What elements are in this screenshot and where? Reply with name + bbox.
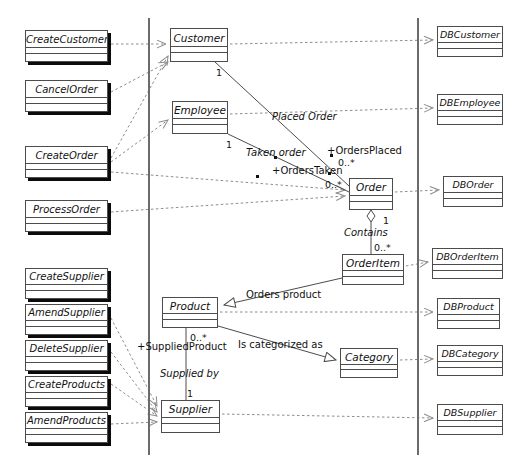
class-box-customer[interactable]: Customer — [170, 28, 228, 62]
class-name: DBOrderItem — [433, 249, 502, 265]
class-name: DBOrder — [444, 177, 502, 193]
class-box-amendproducts[interactable]: AmendProducts — [25, 412, 108, 443]
class-operations — [173, 125, 227, 133]
multiplicity-label: 0..* — [338, 158, 355, 168]
class-name: Category — [341, 349, 397, 365]
association-label: Supplied by — [160, 369, 219, 379]
multiplicity-label: 1 — [216, 68, 222, 78]
class-name: Customer — [171, 29, 227, 47]
class-operations — [26, 291, 107, 298]
class-box-category[interactable]: Category — [340, 348, 398, 378]
role-marker — [330, 154, 333, 157]
multiplicity-label: 0..* — [190, 333, 207, 343]
divider-boundary-entity — [148, 18, 150, 455]
class-box-createproducts[interactable]: CreateProducts — [25, 376, 108, 407]
role-marker — [274, 156, 277, 159]
dep-customer-dbcustomer — [230, 40, 433, 44]
uml-diagram-canvas: CreateCustomerCancelOrderCreateOrderProc… — [0, 0, 528, 469]
association-label: Placed Order — [272, 112, 337, 122]
association-label: Is categorized as — [238, 340, 323, 350]
class-operations — [438, 321, 499, 328]
class-box-deletesupplier[interactable]: DeleteSupplier — [25, 340, 108, 371]
class-operations — [343, 277, 403, 284]
class-name: Product — [163, 298, 217, 314]
class-operations — [341, 370, 397, 377]
class-box-product[interactable]: Product — [162, 297, 218, 328]
multiplicity-label: 1 — [226, 140, 232, 150]
class-operations — [163, 320, 217, 327]
association-label: +SuppliedProduct — [137, 342, 227, 352]
multiplicity-label: 1 — [187, 389, 193, 399]
class-box-cancelorder[interactable]: CancelOrder — [25, 80, 108, 112]
class-name: Order — [350, 179, 392, 196]
class-box-orderitem[interactable]: OrderItem — [342, 254, 404, 285]
class-box-dbcustomer[interactable]: DBCustomer — [437, 26, 503, 57]
class-box-amendsupplier[interactable]: AmendSupplier — [25, 304, 108, 335]
class-name: ProcessOrder — [26, 201, 107, 218]
class-name: DBSupplier — [438, 405, 502, 421]
class-name: Employee — [173, 102, 227, 119]
association-label: Orders product — [246, 290, 321, 300]
class-operations — [26, 170, 107, 177]
class-operations — [438, 368, 502, 375]
class-box-createcustomer[interactable]: CreateCustomer — [25, 30, 108, 62]
class-box-createsupplier[interactable]: CreateSupplier — [25, 268, 108, 299]
class-name: CreateCustomer — [26, 31, 107, 48]
multiplicity-label: 0..* — [374, 243, 391, 253]
class-box-processorder[interactable]: ProcessOrder — [25, 200, 108, 232]
class-box-createorder[interactable]: CreateOrder — [25, 146, 108, 178]
class-box-dbemployee[interactable]: DBEmployee — [437, 94, 503, 125]
class-operations — [444, 199, 502, 206]
association-label: Contains — [344, 228, 388, 238]
class-operations — [26, 224, 107, 231]
class-operations — [26, 435, 107, 442]
class-box-employee[interactable]: Employee — [172, 101, 228, 134]
role-marker — [328, 172, 331, 175]
class-operations — [438, 427, 502, 434]
class-operations — [171, 53, 227, 61]
divider-entity-persistence — [417, 18, 419, 455]
class-operations — [162, 424, 219, 432]
class-name: DBProduct — [438, 299, 499, 315]
class-box-order[interactable]: Order — [349, 178, 393, 210]
class-name: CancelOrder — [26, 81, 107, 98]
class-name: CreateOrder — [26, 147, 107, 164]
dep-processorder-order — [111, 196, 345, 212]
class-operations — [433, 271, 502, 278]
class-box-dbcategory[interactable]: DBCategory — [437, 345, 503, 376]
dep-createorder-employee — [111, 120, 168, 162]
dep-createproducts-supplier — [111, 384, 157, 416]
class-operations — [26, 104, 107, 111]
dep-createorder-customer — [111, 56, 168, 158]
association-label: +OrdersTaken — [272, 166, 343, 176]
class-name: CreateSupplier — [26, 269, 107, 285]
class-operations — [438, 117, 502, 124]
dep-supplier-dbsupplier — [222, 414, 433, 418]
dep-cancelorder-customer — [111, 62, 168, 92]
class-operations — [26, 54, 107, 61]
class-operations — [438, 49, 502, 56]
class-name: AmendProducts — [26, 413, 107, 429]
class-box-dbsupplier[interactable]: DBSupplier — [437, 404, 503, 435]
multiplicity-label: 1 — [383, 216, 389, 226]
class-name: DeleteSupplier — [26, 341, 107, 357]
class-operations — [26, 363, 107, 370]
class-name: Supplier — [162, 401, 219, 418]
class-name: AmendSupplier — [26, 305, 107, 321]
role-marker — [256, 175, 259, 178]
class-box-supplier[interactable]: Supplier — [161, 400, 220, 433]
association-label: +OrdersPlaced — [327, 146, 402, 156]
multiplicity-label: 0..* — [325, 180, 342, 190]
class-box-dborderitem[interactable]: DBOrderItem — [432, 248, 503, 279]
dep-amendproducts-supplier — [111, 422, 157, 424]
class-box-dborder[interactable]: DBOrder — [443, 176, 503, 207]
class-name: DBCustomer — [438, 27, 502, 43]
class-box-dbproduct[interactable]: DBProduct — [437, 298, 500, 329]
class-operations — [26, 327, 107, 334]
class-name: DBEmployee — [438, 95, 502, 111]
class-name: CreateProducts — [26, 377, 107, 393]
class-name: DBCategory — [438, 346, 502, 362]
dep-amendsupplier-supplier — [111, 318, 157, 406]
class-operations — [350, 202, 392, 209]
dep-deletesupplier-supplier — [111, 352, 157, 412]
